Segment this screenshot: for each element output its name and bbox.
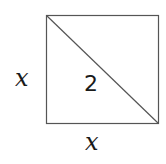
diagonal-length-label: 2	[84, 73, 98, 95]
side-label-left: x	[15, 66, 29, 90]
square-diagonal-diagram: x x 2	[0, 0, 166, 164]
side-label-bottom: x	[85, 130, 99, 154]
